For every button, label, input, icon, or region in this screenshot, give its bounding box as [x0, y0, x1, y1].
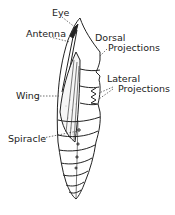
label-antenna: Antenna — [26, 29, 66, 39]
label-eye: Eye — [52, 8, 69, 18]
label-lateral-2: Projections — [118, 84, 170, 94]
label-wing: Wing — [16, 91, 40, 101]
label-dorsal-2: Projections — [108, 43, 160, 53]
lateral-leader — [99, 87, 113, 99]
dorsal-leader — [100, 49, 107, 56]
eye-leader — [62, 17, 76, 28]
label-spiracle: Spiracle — [8, 134, 46, 144]
